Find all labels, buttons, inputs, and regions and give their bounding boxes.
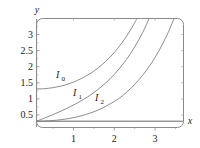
x-axis-label: x [187,115,193,126]
curve-label-I2-sub: 2 [101,98,105,106]
x-tick-label-2: 3 [153,133,158,144]
curve-annotations: I 0 I 1 I 2 [55,69,105,106]
chart-canvas: 0.5 1 1.5 2 2.5 3 1 2 3 y x I 0 I 1 [0,0,200,148]
right-frame-ticks [181,35,184,115]
curve-annotation-I2: I 2 [94,92,105,106]
y-tick-label-5: 3 [28,29,33,40]
curve-I1 [37,19,149,121]
y-tick-label-4: 2.5 [21,45,34,56]
curve-annotation-I0: I 0 [55,69,66,83]
curve-label-I0-base: I [55,69,60,80]
x-tick-label-1: 2 [112,133,117,144]
curve-label-I0-sub: 0 [62,75,66,83]
y-tick-label-2: 1.5 [21,77,34,88]
x-tick-labels: 1 2 3 [71,133,158,144]
curve-label-I1-base: I [72,87,77,98]
y-tick-label-3: 2 [28,61,33,72]
curve-label-I2-base: I [94,92,99,103]
curve-annotation-I1: I 1 [72,87,83,101]
x-tick-label-0: 1 [71,133,76,144]
y-tick-labels: 0.5 1 1.5 2 2.5 3 [21,29,34,121]
curve-I0 [37,19,137,89]
y-axis-label: y [34,4,40,15]
curve-label-I1-sub: 1 [79,93,83,101]
y-tick-label-1: 1 [28,93,33,104]
y-tick-label-0: 0.5 [21,109,34,120]
bessel-function-plot-screenshot: 0.5 1 1.5 2 2.5 3 1 2 3 y x I 0 I 1 [0,0,200,148]
